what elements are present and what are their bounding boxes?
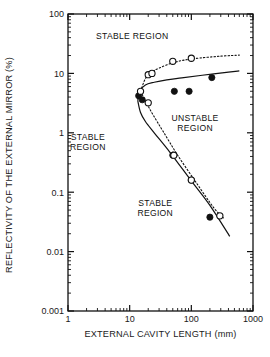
data-point-open-circle xyxy=(188,55,194,61)
y-tick-label: 0.001 xyxy=(41,306,64,316)
data-point-filled-circle xyxy=(171,88,177,94)
y-tick-label: 10 xyxy=(54,69,64,79)
y-tick-label: 1 xyxy=(59,128,64,138)
data-point-filled-circle xyxy=(209,74,215,80)
stable-region-bottom-line2: REGION xyxy=(137,208,173,218)
x-tick-label: 100 xyxy=(184,314,199,324)
data-point-open-circle xyxy=(171,152,177,158)
unstable-region-line1: UNSTABLE xyxy=(172,113,219,123)
data-point-open-circle xyxy=(145,100,151,106)
data-point-open-circle xyxy=(188,177,194,183)
stable-region-top: STABLE REGION xyxy=(96,31,169,41)
y-tick-label: 0.1 xyxy=(51,188,64,198)
stable-region-left-line2: REGION xyxy=(70,142,106,152)
data-point-filled-circle xyxy=(207,214,213,220)
stable-region-bottom-line1: STABLE xyxy=(138,198,172,208)
data-point-open-circle xyxy=(149,70,155,76)
data-point-filled-circle xyxy=(186,88,192,94)
y-tick-label: 0.01 xyxy=(46,247,64,257)
data-point-open-circle xyxy=(217,213,223,219)
y-axis-label: REFLECTIVITY OF THE EXTERNAL MIRROR (%) xyxy=(4,57,14,273)
data-point-open-circle xyxy=(170,58,176,64)
y-tick-label: 100 xyxy=(49,9,64,19)
data-point-open-circle xyxy=(137,88,143,94)
x-axis-label: EXTERNAL CAVITY LENGTH (mm) xyxy=(84,329,236,339)
data-point-filled-circle xyxy=(139,97,145,103)
unstable-region-line2: REGION xyxy=(177,123,213,133)
stable-region-left-line1: STABLE xyxy=(71,132,105,142)
x-tick-label: 1000 xyxy=(243,314,263,324)
stability-chart-svg: 11010010001001010.10.010.001 STABLE REGI… xyxy=(0,0,270,357)
chart-figure: 11010010001001010.10.010.001 STABLE REGI… xyxy=(0,0,270,357)
x-tick-label: 1 xyxy=(65,314,70,324)
x-tick-label: 10 xyxy=(125,314,135,324)
figure-background xyxy=(0,0,270,357)
